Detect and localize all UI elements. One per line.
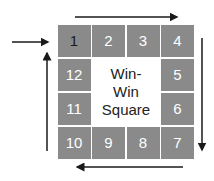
center-title: Win- Win Square	[92, 58, 160, 126]
cell-3: 3	[127, 25, 160, 58]
cell-2: 2	[92, 25, 125, 58]
cell-8: 8	[127, 127, 160, 160]
cell-10: 10	[58, 127, 91, 160]
cell-7: 7	[161, 127, 194, 160]
cell-6: 6	[161, 93, 194, 126]
cell-9: 9	[92, 127, 125, 160]
cell-4: 4	[161, 25, 194, 58]
cell-1: 1	[58, 25, 91, 58]
title-line: Win	[113, 83, 139, 101]
cell-11: 11	[58, 93, 91, 126]
win-win-square-grid: Win- Win Square 123456789101112	[57, 24, 195, 160]
cell-5: 5	[161, 59, 194, 92]
cell-12: 12	[58, 59, 91, 92]
title-line: Win-	[111, 65, 142, 83]
title-line: Square	[102, 101, 150, 119]
